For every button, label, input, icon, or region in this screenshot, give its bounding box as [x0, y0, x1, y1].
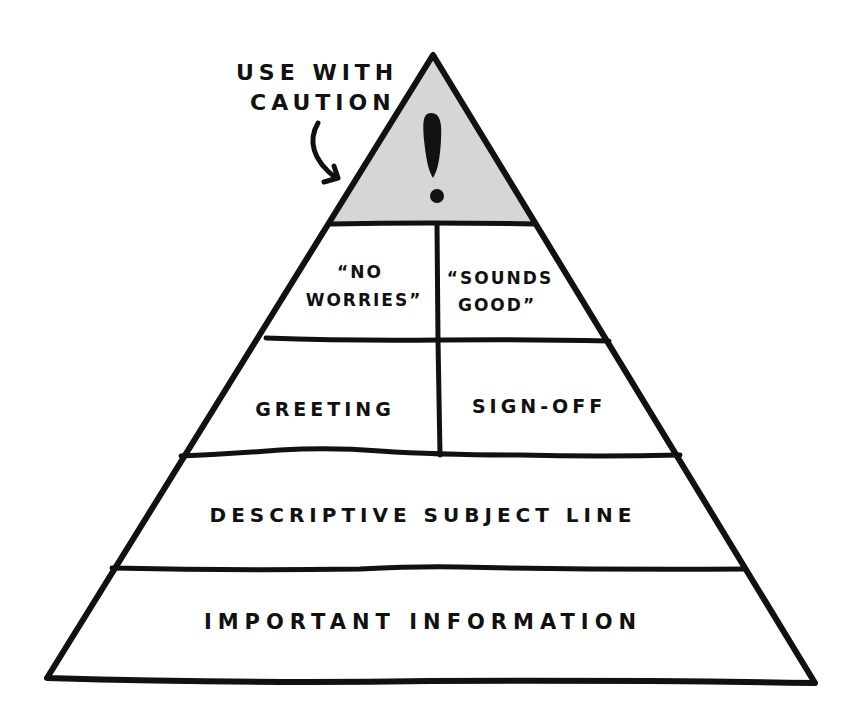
vertical-divider-upper [437, 224, 438, 340]
vertical-divider-lower [438, 340, 440, 455]
tier2-right-line1: “SOUNDS [447, 268, 553, 289]
tier5-important-info-label: IMPORTANT INFORMATION [204, 612, 642, 633]
caution-annotation-line2: CAUTION [250, 92, 396, 114]
tier3-signoff-label: SIGN-OFF [472, 397, 606, 416]
caution-annotation-line1: USE WITH [236, 62, 398, 84]
tier2-left-line1: “NO [337, 262, 383, 283]
tier4-subject-line-label: DESCRIPTIVE SUBJECT LINE [210, 505, 637, 525]
tier2-left-line2: WORRIES” [306, 290, 423, 311]
divider-1 [331, 223, 535, 224]
tier2-right-line2: GOOD” [458, 295, 536, 316]
curved-arrow-icon [313, 123, 338, 182]
divider-3 [181, 449, 680, 456]
tier3-greeting-label: GREETING [255, 400, 395, 419]
divider-4 [112, 567, 745, 570]
